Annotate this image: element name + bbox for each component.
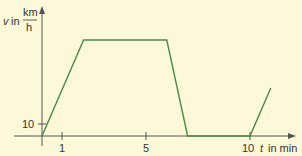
chart: 1 5 10 10 t in min v in km h — [0, 0, 302, 156]
y-axis-unit-den: h — [26, 21, 32, 33]
y-tick-label-10: 10 — [22, 118, 34, 130]
x-tick-label-1: 1 — [59, 142, 65, 154]
y-axis-unit-num: km — [23, 6, 38, 18]
y-axis-var: v — [3, 15, 10, 27]
x-axis-unit: in min — [268, 142, 297, 154]
x-tick-label-5: 5 — [143, 142, 149, 154]
y-axis-arrow-icon — [39, 6, 45, 14]
x-axis-arrow-icon — [288, 133, 296, 139]
x-tick-label-10: 10 — [242, 142, 254, 154]
x-axis-var: t — [260, 142, 264, 154]
velocity-line — [42, 40, 271, 136]
axes — [14, 6, 296, 146]
y-axis-in: in — [11, 15, 20, 27]
